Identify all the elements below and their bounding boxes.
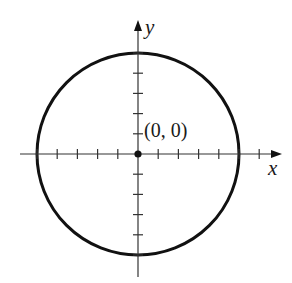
center-point [134, 150, 141, 157]
x-axis-label: x [267, 156, 278, 180]
center-label: (0, 0) [144, 119, 187, 142]
x-axis [20, 149, 282, 159]
y-axis-label: y [143, 15, 155, 39]
y-axis [133, 20, 143, 277]
y-axis-arrow-icon [134, 20, 142, 31]
circle-figure: (0, 0) x y [0, 0, 292, 283]
